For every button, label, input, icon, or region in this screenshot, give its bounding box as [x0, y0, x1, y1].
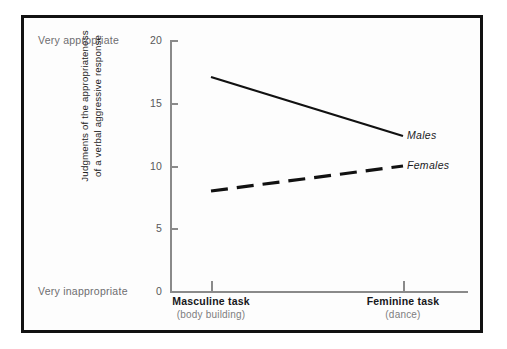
series-label-females: Females [407, 159, 449, 171]
chart-frame-border: 20 15 10 5 0 Very appropriate Very inapp… [21, 15, 483, 333]
series-label-males: Males [407, 129, 437, 141]
figure-container: 20 15 10 5 0 Very appropriate Very inapp… [0, 0, 507, 349]
series-line-females [211, 166, 403, 191]
series-line-males [211, 77, 403, 136]
plot-area [24, 18, 486, 336]
